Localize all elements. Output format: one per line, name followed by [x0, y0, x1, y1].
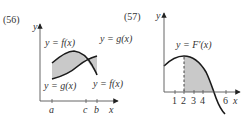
label-f-bottom: y = f(x)	[92, 78, 124, 90]
figure-56: (56) y x a c b y = f(x) y = g(x) y = g(x…	[3, 14, 133, 115]
tick-label-b: b	[94, 104, 99, 115]
tick-label-1: 1	[172, 95, 177, 106]
figure-57-number: (57)	[124, 11, 141, 23]
figure-56-number: (56)	[3, 14, 20, 26]
label-Fprime: y = F′(x)	[175, 39, 212, 51]
shaded-region-56	[52, 51, 97, 79]
y-axis-label-56: y	[32, 21, 38, 32]
tick-label-4: 4	[200, 95, 205, 106]
tick-label-2: 2	[181, 95, 186, 106]
figure-57: (57) y x 1 2 3 4 6 y = F′(x)	[124, 10, 240, 114]
figures-canvas: (56) y x a c b y = f(x) y = g(x) y = g(x…	[0, 0, 242, 119]
x-axis-label-56: x	[108, 104, 114, 115]
tick-label-3: 3	[191, 95, 196, 106]
y-axis-label-57: y	[155, 10, 161, 21]
label-f-top: y = f(x)	[44, 37, 76, 49]
tick-label-6: 6	[223, 95, 228, 106]
tick-label-a: a	[49, 104, 54, 115]
label-g-top: y = g(x)	[99, 33, 133, 45]
x-axis-label-57: x	[232, 95, 238, 106]
tick-label-c: c	[83, 104, 88, 115]
label-g-bottom: y = g(x)	[43, 80, 77, 92]
